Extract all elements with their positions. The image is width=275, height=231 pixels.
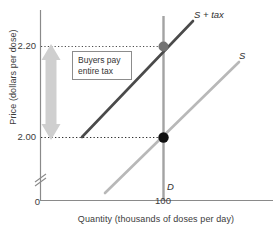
supply-curve[interactable] [105, 62, 239, 193]
x-axis-title: Quantity (thousands of doses per day) [40, 214, 272, 224]
marker-equilibrium-with-tax [159, 42, 169, 52]
supply-demand-tax-chart: Price (dollars per dose) Quantity (thous… [0, 0, 275, 231]
y-tick-label-220: 2.20 [10, 40, 36, 51]
origin-label: 0 [26, 196, 40, 207]
chart-canvas [0, 0, 275, 231]
marker-equilibrium-no-tax [158, 132, 168, 142]
x-tick-label-100: 100 [146, 195, 180, 206]
y-axis-title: Price (dollars per dose) [8, 17, 18, 137]
annotation-line-2: entire tax [78, 66, 127, 77]
demand-curve-label: D [167, 181, 174, 192]
supply-plus-tax-curve-label: S + tax [194, 9, 224, 20]
tax-incidence-arrow-icon [42, 44, 61, 140]
supply-curve-label: S [239, 50, 245, 61]
y-tick-label-200: 2.00 [10, 131, 36, 142]
buyers-pay-entire-tax-annotation: Buyers pay entire tax [72, 51, 132, 80]
annotation-line-1: Buyers pay [78, 55, 127, 66]
